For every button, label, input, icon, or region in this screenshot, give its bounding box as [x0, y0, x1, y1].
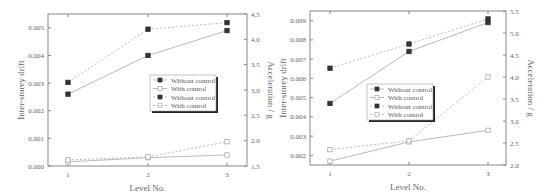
legend-marker [375, 87, 379, 91]
open-square-marker [146, 155, 150, 159]
y-tick-label: 0.007 [290, 56, 306, 64]
filled-square-marker [328, 101, 332, 105]
legend-marker [158, 78, 162, 82]
y-tick-label: 0.005 [290, 94, 306, 102]
x-axis-title: Level No. [390, 182, 426, 192]
y2-tick-label: 5.0 [510, 30, 519, 38]
y-axis-title: Inter-storey drift [278, 58, 288, 118]
filled-square-marker [407, 49, 411, 53]
legend-marker [375, 113, 379, 117]
legend-label: Without control [171, 94, 215, 102]
y-tick-label: 0.004 [290, 113, 306, 121]
y-axis-title: Inter-storey drift [16, 60, 26, 120]
filled-square-marker [146, 53, 150, 57]
series-3 [328, 17, 490, 71]
legend-label: Without control [171, 77, 215, 85]
y-tick-label: 0.006 [290, 75, 306, 83]
filled-square-marker [407, 42, 411, 46]
y-tick-label: 0.001 [28, 135, 44, 143]
y2-tick-label: 1.5 [251, 163, 260, 171]
y2-tick-label: 3.5 [510, 96, 519, 104]
y-tick-label: 0.004 [28, 52, 44, 60]
series-line [330, 130, 488, 161]
x-axis-title: Level No. [130, 183, 166, 193]
legend: Without controlWith controlWithout contr… [150, 75, 218, 113]
legend-marker [375, 104, 379, 108]
legend-marker [158, 95, 162, 99]
x-tick-label: 3 [225, 171, 229, 179]
figure: 0.0000.0010.0020.0030.0040.0051.52.02.53… [0, 0, 549, 196]
y2-axis-title: Acceleration / g [526, 59, 536, 117]
legend-marker [375, 96, 379, 100]
y2-tick-label: 3.0 [251, 87, 260, 95]
y-tick-label: 0.008 [290, 36, 306, 44]
y-tick-label: 0.002 [28, 107, 44, 115]
legend-label: With control [171, 85, 206, 93]
y2-tick-label: 4.0 [251, 36, 260, 44]
legend-marker [158, 87, 162, 91]
legend-label: With control [171, 102, 206, 110]
filled-square-marker [328, 66, 332, 70]
y2-axis-title: Acceleration / g [266, 61, 276, 119]
open-square-marker [486, 128, 490, 132]
y-tick-label: 0.009 [290, 17, 306, 25]
open-square-marker [225, 153, 229, 157]
chart-1: 0.0000.0010.0020.0030.0040.0051.52.02.53… [16, 11, 276, 194]
filled-square-marker [66, 80, 70, 84]
series-4 [66, 139, 229, 162]
legend-label: With control [388, 111, 423, 119]
y-tick-label: 0.005 [28, 24, 44, 32]
filled-square-marker [66, 92, 70, 96]
legend-label: Without control [388, 86, 432, 94]
open-square-marker [328, 147, 332, 151]
legend-marker [158, 104, 162, 108]
y2-tick-label: 4.5 [510, 52, 519, 60]
open-square-marker [407, 139, 411, 143]
y-tick-label: 0.002 [290, 152, 306, 160]
y-tick-label: 0.003 [290, 133, 306, 141]
open-square-marker [486, 75, 490, 79]
filled-square-marker [225, 20, 229, 24]
legend-label: Without control [388, 103, 432, 111]
x-tick-label: 1 [328, 170, 332, 178]
x-tick-label: 2 [146, 171, 150, 179]
y2-tick-label: 3.0 [510, 118, 519, 126]
y2-tick-label: 4.0 [510, 74, 519, 82]
x-tick-label: 3 [486, 170, 490, 178]
y2-tick-label: 4.5 [251, 11, 260, 19]
y2-tick-label: 2.0 [251, 137, 260, 145]
filled-square-marker [486, 17, 490, 21]
y2-tick-label: 5.5 [510, 8, 519, 16]
x-tick-label: 1 [66, 171, 70, 179]
filled-square-marker [146, 27, 150, 31]
y2-tick-label: 2.5 [251, 112, 260, 120]
legend-label: With control [388, 94, 423, 102]
y2-tick-label: 2.5 [510, 140, 519, 148]
open-square-marker [225, 139, 229, 143]
filled-square-marker [225, 28, 229, 32]
y-tick-label: 0.003 [28, 80, 44, 88]
chart-2: 0.0020.0030.0040.0050.0060.0070.0080.009… [278, 8, 536, 193]
open-square-marker [328, 159, 332, 163]
y-tick-label: 0.000 [28, 163, 44, 171]
open-square-marker [66, 158, 70, 162]
series-2 [328, 128, 490, 163]
x-tick-label: 2 [407, 170, 411, 178]
legend: Without controlWith controlWithout contr… [367, 84, 435, 122]
y2-tick-label: 3.5 [251, 61, 260, 69]
y2-tick-label: 2.0 [510, 162, 519, 170]
